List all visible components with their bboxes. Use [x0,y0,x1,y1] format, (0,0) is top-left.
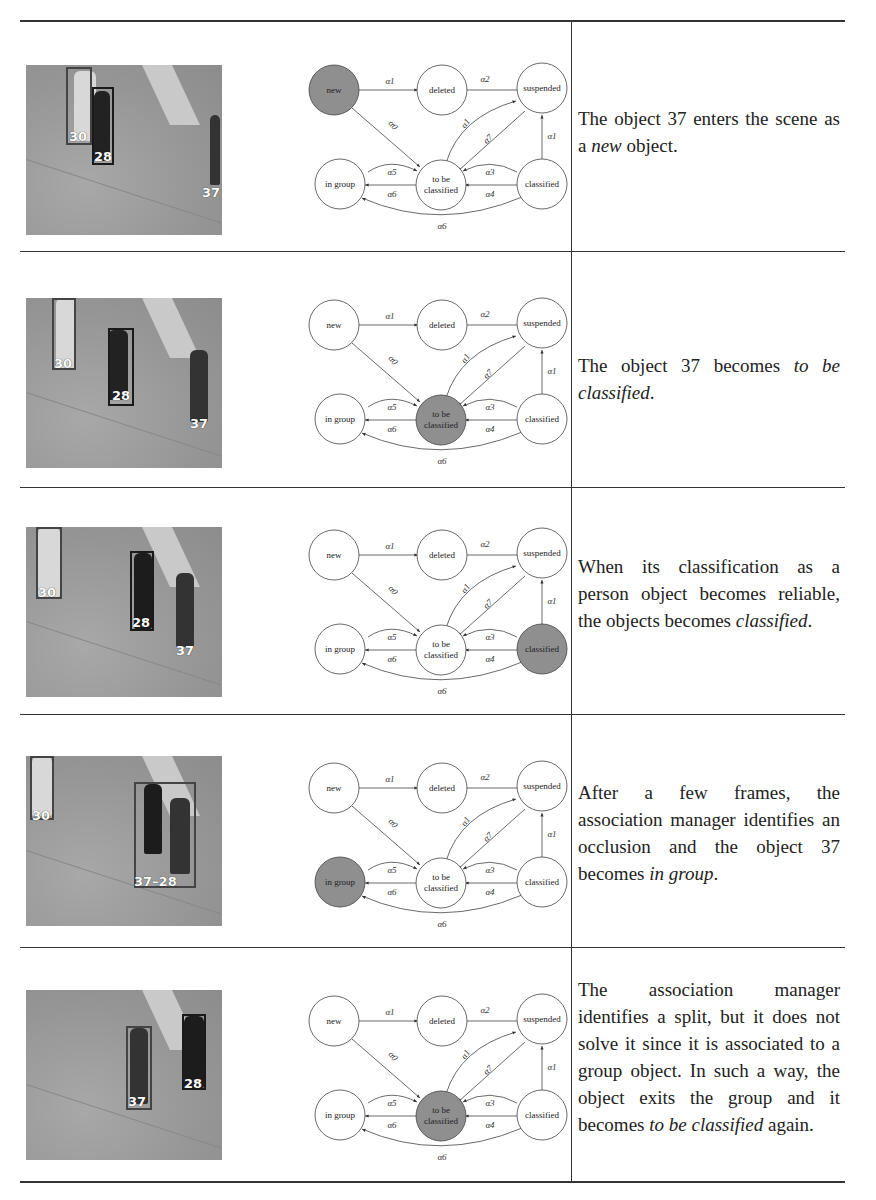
svg-text:α5: α5 [387,632,397,642]
svg-text:α1: α1 [385,76,394,86]
svg-text:α4: α4 [485,654,495,664]
svg-text:α6: α6 [437,456,447,466]
svg-text:in group: in group [325,414,356,424]
svg-text:α2: α2 [480,772,490,782]
svg-text:α1: α1 [459,582,472,595]
svg-text:α5: α5 [387,167,397,177]
object-id-label: 37 [176,643,194,658]
svg-text:α7: α7 [481,1063,495,1077]
svg-text:α3: α3 [485,865,495,875]
svg-text:deleted: deleted [429,85,455,95]
state-machine-graph: α1 α2 α0 α1 α7 α1 α5 α6 α3 α4 α6 [300,57,570,237]
svg-text:α6: α6 [437,919,447,929]
row-description: The association manager identifies a spl… [578,976,840,1138]
svg-text:to be: to be [432,409,450,419]
svg-text:α1: α1 [459,1048,472,1061]
svg-text:in group: in group [325,179,356,189]
svg-text:in group: in group [325,644,356,654]
table-bottom-rule [20,1181,845,1183]
svg-text:α4: α4 [485,189,495,199]
state-machine-graph: α1 α2 α0 α1 α7 α1 α5 α6 α3 α4 α6 [300,522,570,702]
svg-text:classified: classified [525,179,559,189]
svg-text:deleted: deleted [429,320,455,330]
svg-text:α1: α1 [385,1007,394,1017]
svg-text:α6: α6 [437,1152,447,1162]
svg-text:α5: α5 [387,1098,397,1108]
object-id-label: 30 [32,808,50,823]
row-description: After a few frames, the association mana… [578,779,840,887]
table-row: 30 37–28 α1 α2 α0 [20,715,845,947]
svg-text:classified: classified [424,1116,458,1126]
svg-text:α0: α0 [387,1049,401,1063]
state-diagram: α1 α2 α0 α1 α7 α1 α5 α6 α3 α4 α6 [300,988,570,1168]
object-id-label: 30 [69,129,87,144]
svg-text:α1: α1 [547,596,556,606]
table-row: 30 28 37 α1 α2 α0 [20,252,845,487]
svg-text:α6: α6 [387,189,397,199]
surveillance-frame: 30 37–28 [26,756,222,926]
svg-text:classified: classified [525,414,559,424]
svg-text:α6: α6 [437,686,447,696]
svg-text:α6: α6 [387,424,397,434]
svg-text:α0: α0 [387,353,401,367]
state-diagram: α1 α2 α0 α1 α7 α1 α5 α6 α3 α4 α6 [300,755,570,935]
svg-text:suspended: suspended [523,318,561,328]
svg-text:classified: classified [525,877,559,887]
object-id-label: 28 [112,388,130,403]
state-diagram: α1 α2 α0 α1 α7 α1 α5 α6 α3 α4 α6 [300,292,570,472]
svg-text:α1: α1 [547,1062,556,1072]
svg-text:α3: α3 [485,632,495,642]
svg-text:new: new [327,320,342,330]
svg-text:suspended: suspended [523,548,561,558]
svg-text:α4: α4 [485,1120,495,1130]
svg-text:α5: α5 [387,865,397,875]
svg-text:classified: classified [424,650,458,660]
object-id-label: 28 [184,1076,202,1091]
svg-text:α2: α2 [480,309,490,319]
svg-text:α0: α0 [387,816,401,830]
svg-text:classified: classified [424,883,458,893]
svg-text:α7: α7 [481,132,495,146]
svg-text:deleted: deleted [429,783,455,793]
svg-text:α6: α6 [387,887,397,897]
object-id-label: 37 [190,416,208,431]
state-machine-graph: α1 α2 α0 α1 α7 α1 α5 α6 α3 α4 α6 [300,988,570,1168]
svg-text:α7: α7 [481,597,495,611]
svg-text:α4: α4 [485,887,495,897]
svg-text:α3: α3 [485,1098,495,1108]
svg-text:new: new [327,1016,342,1026]
svg-text:classified: classified [525,1110,559,1120]
svg-text:α1: α1 [459,117,472,130]
svg-text:classified: classified [424,420,458,430]
state-machine-graph: α1 α2 α0 α1 α7 α1 α5 α6 α3 α4 α6 [300,755,570,935]
svg-text:α1: α1 [547,131,556,141]
object-id-label: 37 [128,1094,146,1109]
svg-text:α6: α6 [387,654,397,664]
svg-text:α4: α4 [485,424,495,434]
svg-text:new: new [327,550,342,560]
svg-text:deleted: deleted [429,550,455,560]
svg-text:suspended: suspended [523,1014,561,1024]
svg-text:α0: α0 [387,118,401,132]
row-description: When its classification as a person obje… [578,553,840,634]
svg-text:in group: in group [325,877,356,887]
svg-text:α3: α3 [485,167,495,177]
object-id-label: 30 [38,585,56,600]
svg-text:α7: α7 [481,367,495,381]
row-description: The object 37 becomes to be classified. [578,352,840,406]
surveillance-frame: 30 28 37 [26,527,222,697]
row-description: The object 37 enters the scene as a new … [578,105,840,159]
svg-text:to be: to be [432,639,450,649]
tracking-box [134,782,196,888]
svg-text:α5: α5 [387,402,397,412]
svg-text:α1: α1 [385,311,394,321]
svg-text:to be: to be [432,1105,450,1115]
svg-text:α3: α3 [485,402,495,412]
svg-text:suspended: suspended [523,781,561,791]
object-id-label: 28 [132,615,150,630]
table-row: 37 28 α1 α2 α0 α1 [20,948,845,1181]
svg-text:new: new [327,85,342,95]
svg-text:α1: α1 [547,366,556,376]
state-machine-graph: α1 α2 α0 α1 α7 α1 α5 α6 α3 α4 α6 [300,292,570,472]
svg-text:α1: α1 [385,774,394,784]
